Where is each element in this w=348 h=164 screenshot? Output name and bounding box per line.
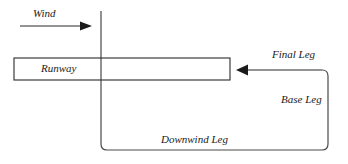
traffic-pattern-diagram: Wind Runway Final Leg Base Leg Downwind … bbox=[0, 0, 348, 164]
final-leg-label: Final Leg bbox=[272, 49, 315, 60]
wind-arrow-head bbox=[80, 22, 92, 31]
wind-label: Wind bbox=[33, 8, 56, 19]
runway-label: Runway bbox=[41, 63, 76, 74]
downwind-leg-label: Downwind Leg bbox=[161, 134, 228, 145]
final-approach-arrow-icon bbox=[236, 65, 248, 76]
base-leg-line bbox=[322, 70, 328, 150]
final-leg-track bbox=[236, 65, 322, 76]
wind-arrow-icon bbox=[20, 22, 92, 31]
base-leg-label: Base Leg bbox=[281, 94, 322, 105]
